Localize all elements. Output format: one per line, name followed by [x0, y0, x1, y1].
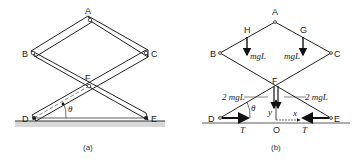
pin-D-b: [219, 117, 222, 120]
label-E-b: E: [334, 114, 340, 124]
pin-A: [88, 18, 92, 22]
label-theta-a: θ: [68, 104, 73, 114]
angle-arc-b: [247, 102, 250, 118]
pin-C: [144, 51, 148, 55]
scissor-mechanism-figure: A B C F D E θ (a): [0, 0, 361, 159]
caption-b: (b): [271, 143, 281, 152]
label-F: F: [85, 73, 91, 83]
label-A-b: A: [272, 7, 278, 17]
label-mgL-left: mgL: [250, 51, 266, 61]
pin-C-b: [330, 52, 333, 55]
label-2mgL-right: 2 mgL: [305, 92, 328, 102]
pin-A-b: [274, 21, 277, 24]
label-2mgL-left: 2 mgL: [222, 92, 245, 102]
figure-a: A B C F D E θ (a): [15, 6, 165, 152]
label-B: B: [22, 49, 28, 59]
label-y-axis: y: [267, 107, 272, 117]
label-A: A: [85, 6, 91, 16]
caption-a: (a): [83, 143, 93, 152]
label-x-axis: x: [292, 108, 297, 118]
bar-AB: [31, 16, 92, 57]
label-E: E: [151, 114, 157, 124]
label-C-b: C: [334, 49, 341, 59]
label-T-left: T: [240, 125, 246, 135]
label-D: D: [22, 114, 29, 124]
label-B-b: B: [210, 49, 216, 59]
pin-D: [32, 116, 36, 120]
bar-AC: [88, 16, 148, 57]
figure-b: A H G B C mgL mgL F 2 mgL 2 mgL θ y x D …: [202, 7, 350, 152]
pin-F: [87, 84, 91, 88]
angle-dot: [62, 103, 65, 106]
centerline: [34, 86, 89, 118]
label-mgL-right: mgL: [284, 51, 300, 61]
ground-hatch: [15, 121, 165, 127]
label-theta-b: θ: [251, 103, 256, 113]
label-T-right: T: [302, 125, 308, 135]
label-G: G: [300, 25, 307, 35]
pin-E-b: [330, 117, 333, 120]
label-O: O: [273, 125, 280, 135]
label-D-b: D: [208, 114, 215, 124]
pin-E: [144, 116, 148, 120]
pin-B-b: [219, 52, 222, 55]
label-F-b: F: [272, 76, 278, 86]
label-C: C: [151, 49, 158, 59]
pin-B: [31, 51, 35, 55]
label-H: H: [244, 25, 251, 35]
